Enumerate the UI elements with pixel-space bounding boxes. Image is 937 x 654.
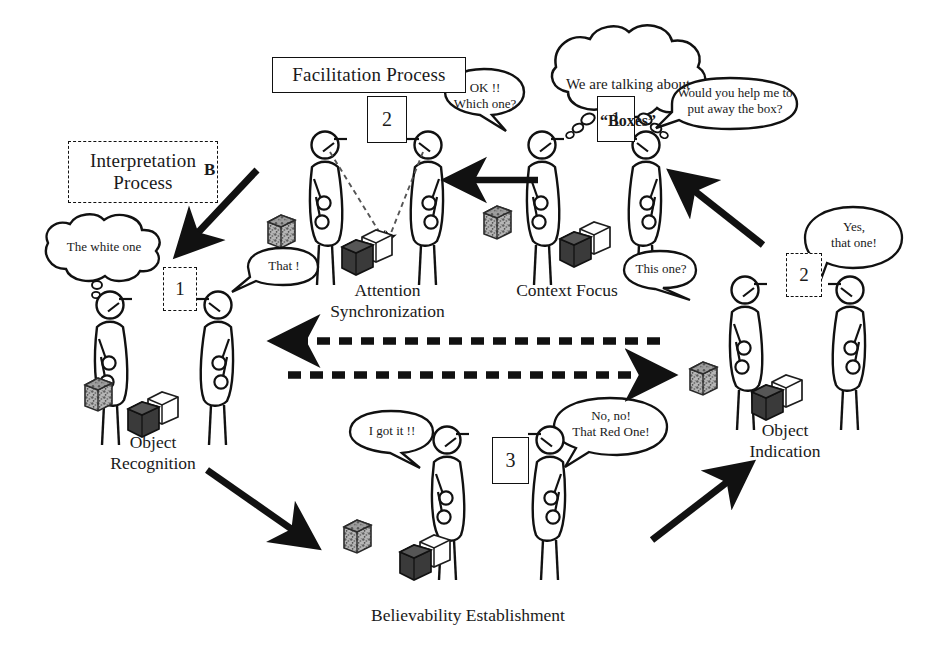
bubble-i-got-it [350,411,433,468]
gaze-lines [330,152,423,238]
stick-figure-be-right [528,427,565,581]
step-number-object-recognition-value: 1 [175,278,185,300]
panel-facilitation-process-label: Facilitation Process [292,64,445,86]
diagram-canvas: Facilitation Process Interpretation Proc… [0,0,937,654]
cube-textured-oi [690,362,717,395]
step-number-attention-sync-value: 2 [382,108,392,131]
stick-figure-cf-left [527,132,564,286]
arrow-indication-to-context [687,185,763,245]
stage-believability [344,398,667,580]
cube-pair-be [400,535,450,580]
step-number-context-focus-value: 1 [611,108,621,131]
panel-facilitation-process: Facilitation Process [272,57,466,93]
stick-figure-or-left [95,292,132,446]
stick-figure-as-right [406,132,443,286]
diagram-vector-layer [0,0,937,654]
bubble-white-one-cloud [46,214,160,298]
stick-figure-oi-right [828,277,865,431]
step-number-context-focus: 1 [597,96,635,142]
stage-object-indication [624,207,902,430]
step-number-object-recognition: 1 [163,267,197,311]
step-number-believability-value: 3 [506,449,516,472]
arrow-believability-to-indication [652,476,735,540]
stage-context-focus [445,25,797,285]
panel-interpretation-process-label: Interpretation Process [69,150,217,194]
cube-textured-as [268,215,295,248]
stage-label-attention-sync: Attention Synchronization [300,280,475,321]
stage-label-object-recognition: Object Recognition [73,432,233,473]
stage-label-object-indication: Object Indication [705,420,865,461]
arrow-recognition-to-believability [207,470,300,535]
panel-interpretation-process: Interpretation Process [68,141,218,203]
cube-pair-as [342,230,392,275]
stage-label-believability: Believability Establishment [318,605,618,626]
cube-textured-or [85,378,112,411]
cube-pair-or [128,392,178,437]
cube-textured-cf [484,206,511,239]
stage-label-context-focus: Context Focus [487,280,647,301]
step-number-object-indication: 2 [786,253,822,297]
step-number-attention-sync: 2 [367,96,407,143]
cube-pair-cf [560,222,610,267]
stick-figure-or-right [196,292,233,446]
step-number-object-indication-value: 2 [799,264,809,286]
step-number-believability: 3 [492,437,529,484]
flow-letter-b: B [204,160,215,180]
bubble-no-no-red [554,398,667,467]
stage-object-recognition [46,214,318,445]
cube-textured-be [344,520,371,553]
